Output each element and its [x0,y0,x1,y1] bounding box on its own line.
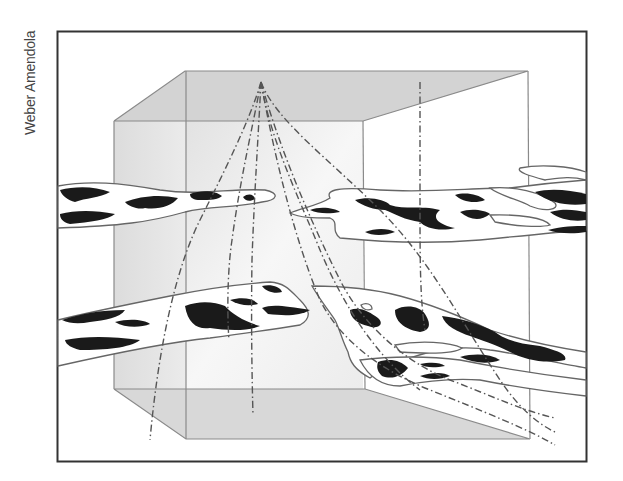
block-inner-back [186,121,363,389]
reservoir-block [114,71,530,439]
reservoir-block-diagram [0,0,623,481]
block-left-face [114,71,186,439]
